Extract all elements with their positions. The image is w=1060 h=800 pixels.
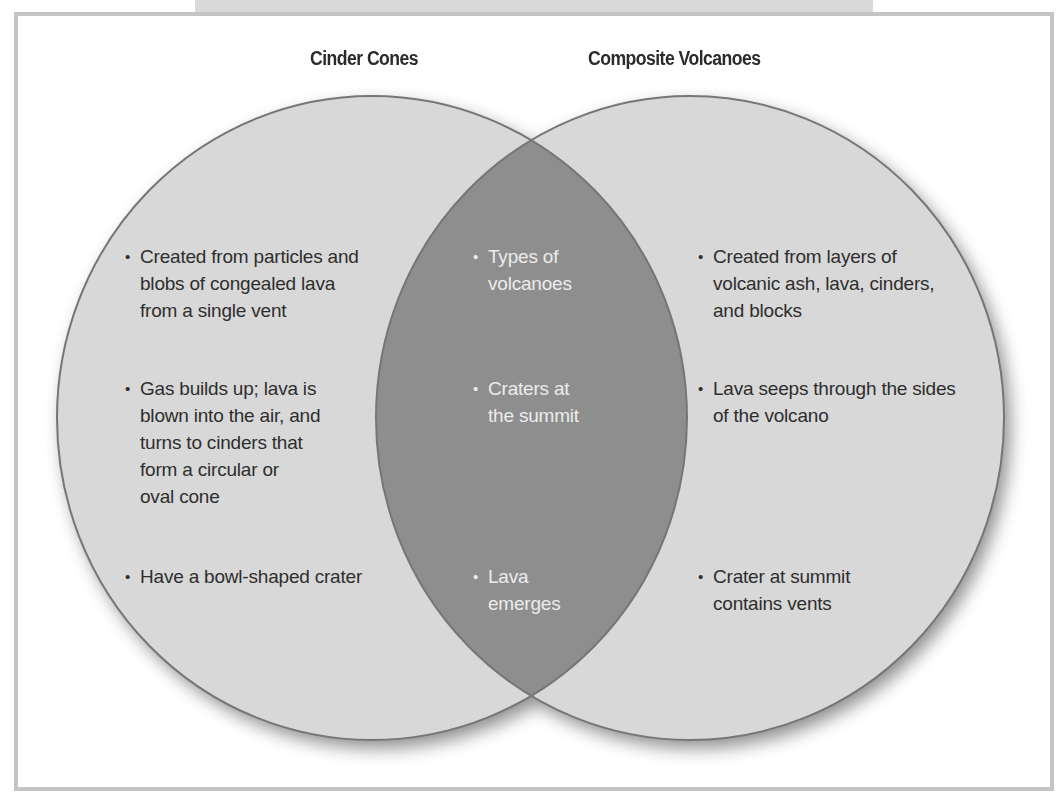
overlap-item-3: • Lava emerges [488,563,561,617]
composite-item-3: • Crater at summit contains vents [713,563,850,617]
composite-item-2: • Lava seeps through the sides of the vo… [713,375,956,429]
bullet-icon: • [473,243,478,270]
composite-item-1: • Created from layers of volcanic ash, l… [713,243,934,324]
bullet-icon: • [473,375,478,402]
bullet-icon: • [473,563,478,590]
bullet-icon: • [125,375,130,402]
bullet-icon: • [698,563,703,590]
overlap-item-1: • Types of volcanoes [488,243,572,297]
bullet-icon: • [125,563,130,590]
set-title-composite-volcanoes: Composite Volcanoes [588,47,761,70]
bullet-icon: • [698,243,703,270]
cinder-item-1: • Created from particles and blobs of co… [140,243,359,324]
cinder-item-3: • Have a bowl-shaped crater [140,563,362,590]
cinder-item-2: • Gas builds up; lava is blown into the … [140,375,320,510]
overlap-item-2: • Craters at the summit [488,375,579,429]
bullet-icon: • [125,243,130,270]
set-title-cinder-cones: Cinder Cones [310,47,418,70]
bullet-icon: • [698,375,703,402]
